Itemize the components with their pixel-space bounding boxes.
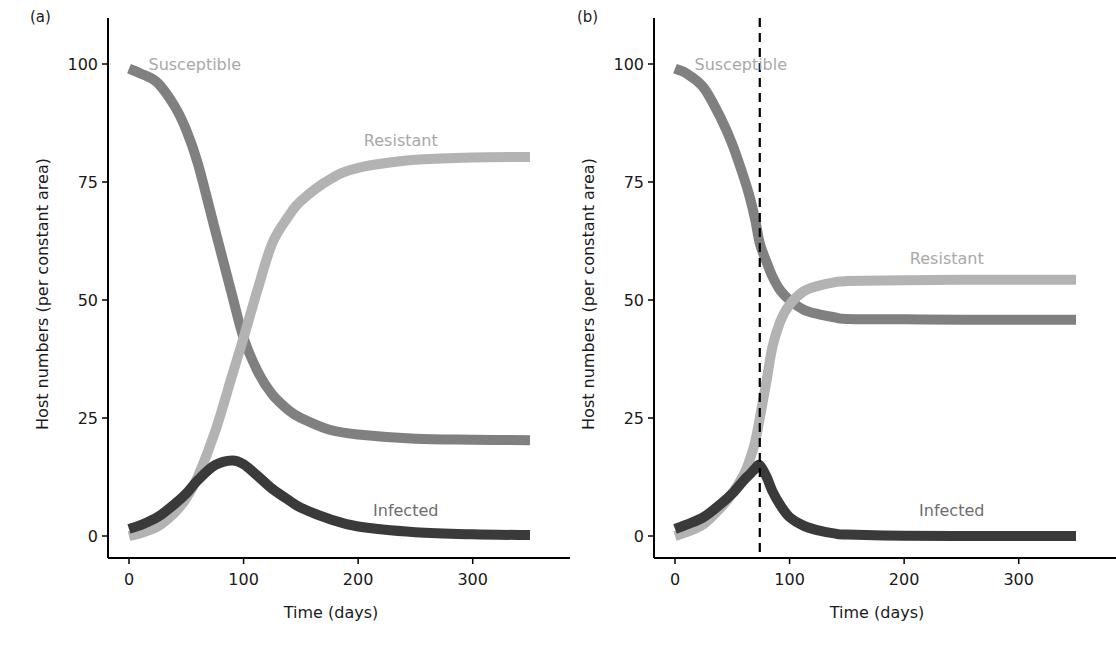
x-tick-label: 300 [1003,570,1034,589]
y-axis-title: Host numbers (per constant area) [33,158,52,430]
series-label-resistant: Resistant [910,249,984,268]
series-label-susceptible: Susceptible [148,55,241,74]
series-line-infected [675,465,1076,536]
series-label-susceptible: Susceptible [694,55,787,74]
y-tick-label: 0 [88,527,98,546]
x-axis-title: Time (days) [283,603,379,622]
figure: (a)02550751000100200300Time (days)Host n… [0,0,1116,652]
series-line-resistant [129,157,530,536]
y-tick-label: 75 [78,173,98,192]
y-tick-label: 25 [78,409,98,428]
series-label-infected: Infected [373,501,438,520]
x-tick-label: 0 [670,570,680,589]
x-tick-label: 100 [774,570,805,589]
y-tick-label: 50 [78,291,98,310]
y-tick-label: 75 [624,173,644,192]
x-tick-label: 100 [228,570,259,589]
x-tick-label: 300 [457,570,488,589]
series-line-susceptible [129,69,530,440]
series-label-resistant: Resistant [364,131,438,150]
x-tick-label: 0 [124,570,134,589]
panel-label: (b) [577,8,598,26]
series-label-infected: Infected [919,501,984,520]
panel-a: (a)02550751000100200300Time (days)Host n… [30,8,570,622]
x-tick-label: 200 [889,570,920,589]
y-tick-label: 100 [67,55,98,74]
panel-b: (b)02550751000100200300Time (days)Host n… [577,8,1116,622]
y-tick-label: 50 [624,291,644,310]
x-axis-title: Time (days) [829,603,925,622]
y-tick-label: 0 [634,527,644,546]
y-tick-label: 100 [613,55,644,74]
x-tick-label: 200 [343,570,374,589]
y-axis-title: Host numbers (per constant area) [579,158,598,430]
panel-label: (a) [30,8,51,26]
y-tick-label: 25 [624,409,644,428]
